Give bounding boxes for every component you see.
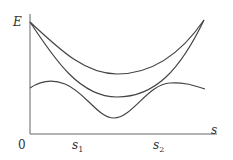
- x-axis-label: s: [211, 124, 217, 136]
- middle-curve: [30, 20, 204, 97]
- tick-s2-sub: 2: [159, 145, 164, 154]
- energy-diagram: E 0 s s1 s2: [0, 0, 233, 160]
- lower-curve: [30, 81, 205, 118]
- y-axis-label: E: [13, 16, 22, 28]
- tick-s1-sub: 1: [78, 145, 83, 154]
- tick-s1: s1: [72, 139, 83, 154]
- upper-curve: [30, 20, 204, 74]
- diagram-plot: [0, 0, 233, 160]
- tick-s2: s2: [153, 139, 164, 154]
- origin-label: 0: [18, 139, 26, 151]
